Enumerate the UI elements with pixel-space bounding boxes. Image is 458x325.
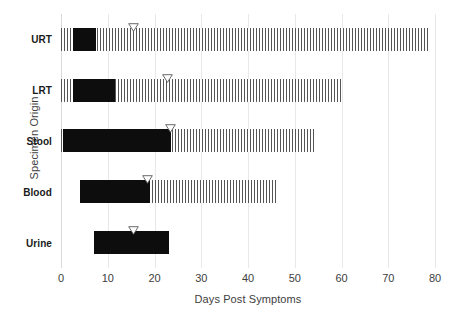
triangle-down-marker-icon xyxy=(162,69,173,87)
y-tick-label-lrt: LRT xyxy=(32,85,52,96)
x-tick-label-70: 70 xyxy=(382,272,394,284)
x-tick-label-60: 60 xyxy=(335,272,347,284)
gridline-80 xyxy=(435,14,436,268)
category-row-lrt: LRT xyxy=(61,65,435,116)
y-tick-label-urine: Urine xyxy=(26,237,52,248)
x-tick-label-80: 80 xyxy=(429,272,441,284)
x-tick-label-0: 0 xyxy=(58,272,64,284)
bar-group-urine xyxy=(61,231,435,254)
triangle-down-marker-icon xyxy=(128,221,139,239)
plot-area: URTLRTStoolBloodUrine xyxy=(61,14,435,268)
bar-hatched-urt xyxy=(61,28,428,51)
category-row-urt: URT xyxy=(61,14,435,65)
x-tick-label-20: 20 xyxy=(148,272,160,284)
y-tick-label-urt: URT xyxy=(31,34,52,45)
category-row-urine: Urine xyxy=(61,217,435,268)
category-row-stool: Stool xyxy=(61,116,435,167)
y-tick-label-stool: Stool xyxy=(27,135,53,146)
bar-chart: Specimen Origin URTLRTStoolBloodUrine 01… xyxy=(0,0,458,325)
bar-group-stool xyxy=(61,129,435,152)
category-row-blood: Blood xyxy=(61,166,435,217)
x-axis-tick-labels: 01020304050607080 xyxy=(61,272,435,288)
x-tick-label-50: 50 xyxy=(289,272,301,284)
x-tick-label-40: 40 xyxy=(242,272,254,284)
x-tick-label-30: 30 xyxy=(195,272,207,284)
bar-solid-urt xyxy=(73,28,96,51)
y-tick-label-blood: Blood xyxy=(23,186,52,197)
bar-solid-stool xyxy=(63,129,171,152)
x-tick-label-10: 10 xyxy=(102,272,114,284)
triangle-down-marker-icon xyxy=(142,170,153,188)
bar-group-urt xyxy=(61,28,435,51)
bar-solid-blood xyxy=(80,180,150,203)
triangle-down-marker-icon xyxy=(165,119,176,137)
bar-solid-lrt xyxy=(73,79,115,102)
bar-group-lrt xyxy=(61,79,435,102)
triangle-down-marker-icon xyxy=(128,18,139,36)
bar-group-blood xyxy=(61,180,435,203)
x-axis-title: Days Post Symptoms xyxy=(61,293,435,305)
